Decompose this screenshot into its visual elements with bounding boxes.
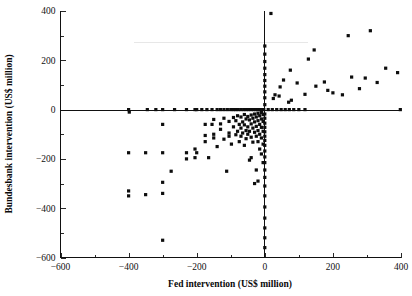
data-point — [303, 93, 306, 96]
data-point — [236, 130, 239, 133]
data-point — [173, 108, 176, 111]
data-point — [258, 123, 261, 126]
data-point — [296, 81, 299, 84]
data-point — [313, 48, 316, 51]
data-point — [204, 134, 207, 137]
data-point — [161, 192, 164, 195]
y-axis-title: Bundesbank intervention (US$ million) — [4, 54, 15, 213]
data-point — [219, 128, 222, 131]
data-point — [263, 144, 266, 147]
data-point — [227, 120, 230, 123]
data-point — [195, 151, 198, 154]
data-point — [258, 147, 261, 150]
data-point — [255, 135, 258, 138]
data-point — [127, 189, 130, 192]
data-point — [239, 126, 242, 129]
data-point — [222, 108, 225, 111]
data-point — [282, 78, 285, 81]
data-point — [258, 133, 261, 136]
data-point — [246, 133, 249, 136]
data-point — [263, 205, 266, 208]
data-point — [263, 103, 266, 106]
data-point — [241, 120, 244, 123]
data-point — [267, 108, 270, 111]
data-point — [279, 85, 282, 88]
data-point — [255, 115, 258, 118]
data-point — [216, 108, 219, 111]
data-point — [232, 125, 235, 128]
data-point — [263, 79, 266, 82]
data-point — [193, 147, 196, 150]
data-point — [263, 135, 266, 138]
data-point — [255, 125, 258, 128]
data-point — [127, 151, 130, 154]
data-point — [263, 112, 266, 115]
data-point — [250, 136, 253, 139]
x-tick-label: 200 — [326, 262, 341, 272]
figure-background — [0, 0, 412, 296]
y-tick-label: −200 — [36, 154, 56, 164]
data-point — [263, 60, 266, 63]
data-point — [341, 93, 344, 96]
data-point — [263, 73, 266, 76]
data-point — [161, 181, 164, 184]
data-point — [170, 170, 173, 173]
x-axis-title: Fed intervention (US$ million) — [168, 279, 292, 290]
data-point — [146, 108, 149, 111]
data-point — [260, 152, 263, 155]
data-point — [263, 122, 266, 125]
data-point — [384, 67, 387, 70]
data-point — [234, 133, 237, 136]
x-tick-label: 400 — [394, 262, 409, 272]
data-point — [289, 69, 292, 72]
data-point — [210, 108, 213, 111]
data-point — [258, 114, 261, 117]
data-point — [263, 176, 266, 179]
data-point — [253, 112, 256, 115]
x-tick-label: 0 — [262, 262, 267, 272]
data-point — [195, 108, 198, 111]
data-point — [161, 151, 164, 154]
data-point — [219, 108, 222, 111]
data-point — [369, 29, 372, 32]
data-point — [244, 129, 247, 132]
data-point — [260, 126, 263, 129]
data-point — [263, 194, 266, 197]
data-point — [212, 133, 215, 136]
plot-canvas: −600−400−2000200400 −600−400−2000200400 … — [0, 0, 412, 296]
data-point — [226, 108, 229, 111]
x-tick-label: −200 — [187, 262, 207, 272]
data-point — [144, 193, 147, 196]
data-point — [347, 34, 350, 37]
data-point — [263, 246, 266, 249]
data-point — [244, 137, 247, 140]
data-point — [200, 108, 203, 111]
data-point — [253, 182, 256, 185]
data-point — [243, 144, 246, 147]
data-point — [256, 129, 259, 132]
data-point — [364, 76, 367, 79]
data-point — [263, 161, 266, 164]
data-point — [238, 140, 241, 143]
data-point — [144, 151, 147, 154]
data-point — [263, 226, 266, 229]
data-point — [204, 123, 207, 126]
data-point — [253, 131, 256, 134]
y-tick-label: −400 — [36, 204, 56, 214]
data-point — [263, 117, 266, 120]
data-point — [288, 108, 291, 111]
data-point — [128, 110, 131, 113]
x-tick-label: −600 — [51, 262, 71, 272]
data-point — [250, 156, 253, 159]
data-point — [263, 139, 266, 142]
data-point — [263, 96, 266, 99]
data-point — [262, 108, 265, 111]
data-point — [250, 113, 253, 116]
data-point — [263, 149, 266, 152]
data-point — [185, 151, 188, 154]
data-point — [358, 87, 361, 90]
data-point — [280, 108, 283, 111]
data-point — [272, 97, 275, 100]
data-point — [256, 140, 259, 143]
data-point — [241, 131, 244, 134]
